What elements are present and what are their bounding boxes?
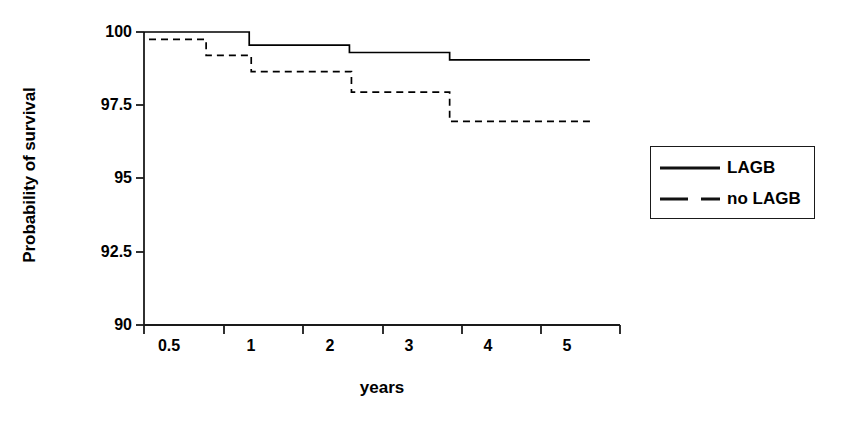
chart-legend: LAGB no LAGB [650, 146, 815, 219]
series-line-no-lagb [149, 39, 590, 121]
legend-item-no-lagb: no LAGB [651, 184, 814, 214]
survival-chart-figure: Probability of survival 100 97.5 95 92.5… [0, 0, 850, 428]
legend-key-solid-icon [659, 163, 721, 173]
legend-label-no-lagb: no LAGB [727, 189, 801, 209]
axis-lines [144, 32, 620, 325]
legend-label-lagb: LAGB [727, 158, 775, 178]
x-axis-ticks [144, 325, 620, 334]
legend-key-dashed-icon [659, 194, 721, 204]
y-axis-ticks [136, 32, 144, 325]
legend-item-lagb: LAGB [651, 153, 814, 183]
